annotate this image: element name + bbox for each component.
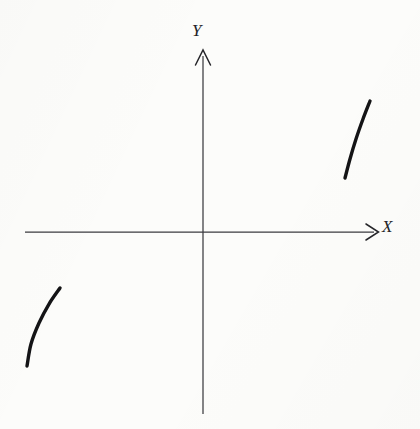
coordinate-figure: Y X <box>0 0 420 429</box>
curve-quadrant-iii <box>27 288 60 366</box>
curve-quadrant-i <box>345 101 370 178</box>
y-axis-label: Y <box>192 22 201 39</box>
x-axis-label: X <box>382 218 392 235</box>
figure-canvas <box>0 0 420 429</box>
